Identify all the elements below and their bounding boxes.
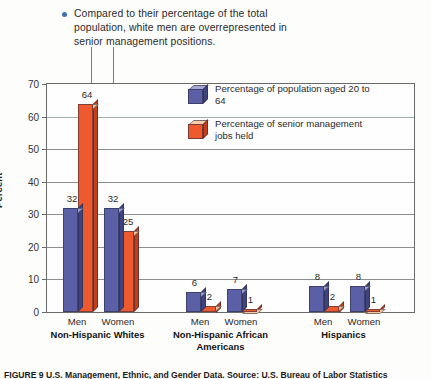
x-axis-subcategory-label: Men (57, 316, 98, 327)
bar-value-label: 32 (67, 193, 78, 204)
x-axis-group-label: Hispanics (284, 329, 404, 341)
y-axis-tick-label: 30 (28, 209, 39, 220)
chart-legend: Percentage of population aged 20 to 64 P… (188, 81, 378, 151)
bar-side-face (93, 99, 98, 312)
bar: 8 (309, 286, 324, 312)
bar: 8 (350, 286, 365, 312)
bar-side-face (134, 226, 139, 312)
y-axis-tick (42, 84, 47, 85)
y-axis-tick-label: 10 (28, 274, 39, 285)
y-axis-title: Percent (0, 172, 4, 208)
bar: 6 (186, 292, 201, 312)
bar-front-face (350, 286, 365, 312)
bar: 32 (63, 208, 78, 312)
y-axis-tick-label: 40 (28, 176, 39, 187)
bar-value-label: 2 (330, 291, 335, 302)
x-axis-subcategory-label: Men (303, 316, 344, 327)
y-axis-tick (42, 312, 47, 313)
annotation-callout: Compared to their percentage of the tota… (62, 7, 312, 50)
bullet-dot-icon (62, 12, 67, 17)
x-axis-group-label: Non-Hispanic Whites (38, 329, 158, 341)
x-axis-group: MenWomenNon-Hispanic African Americans (161, 316, 281, 352)
y-axis-tick (42, 117, 47, 118)
y-axis-tick-label: 50 (28, 144, 39, 155)
legend-item: Percentage of population aged 20 to 64 (188, 81, 378, 108)
bar-value-label: 6 (192, 277, 197, 288)
legend-label: Percentage of senior management jobs hel… (215, 116, 378, 143)
bar-value-label: 8 (356, 271, 361, 282)
bar-front-face (309, 286, 324, 312)
y-axis-tick-label: 70 (28, 79, 39, 90)
y-axis-tick (42, 247, 47, 248)
x-axis-subcategory-label: Men (180, 316, 221, 327)
x-axis-subcategory-label: Women (344, 316, 385, 327)
bar-value-label: 32 (108, 193, 119, 204)
bar-value-label: 8 (315, 271, 320, 282)
y-axis-tick-label: 60 (28, 111, 39, 122)
bar-front-face (227, 289, 242, 312)
y-axis-tick-label: 20 (28, 241, 39, 252)
gridline (47, 214, 414, 215)
bar-front-face (186, 292, 201, 312)
gridline (47, 247, 414, 248)
figure-caption: FIGURE 9 U.S. Management, Ethnic, and Ge… (4, 370, 427, 379)
y-axis-tick (42, 149, 47, 150)
bar-front-face (104, 208, 119, 312)
x-axis-group: MenWomenHispanics (284, 316, 404, 341)
bar-value-label: 2 (207, 291, 212, 302)
bar-side-face (78, 203, 83, 312)
y-axis-tick (42, 182, 47, 183)
chart-plot-area: 010203040506070 3264322562718281 Percent… (46, 83, 415, 313)
bar-value-label: 64 (82, 89, 93, 100)
annotation-text: Compared to their percentage of the tota… (62, 7, 312, 50)
orange-cube-icon (188, 120, 207, 139)
bar-value-label: 1 (371, 294, 376, 305)
bar: 32 (104, 208, 119, 312)
bar-value-label: 1 (248, 294, 253, 305)
bar-side-face (119, 203, 124, 312)
y-axis-tick (42, 214, 47, 215)
bar: 7 (227, 289, 242, 312)
blue-cube-icon (188, 85, 207, 104)
x-axis-subcategory-label: Women (221, 316, 262, 327)
bar-front-face (63, 208, 78, 312)
bar-value-label: 7 (233, 274, 238, 285)
bar-value-label: 25 (123, 216, 134, 227)
x-axis-subcategory-label: Women (98, 316, 139, 327)
y-axis-tick (42, 279, 47, 280)
x-axis-group: MenWomenNon-Hispanic Whites (38, 316, 158, 341)
legend-item: Percentage of senior management jobs hel… (188, 116, 378, 143)
legend-label: Percentage of population aged 20 to 64 (215, 81, 378, 108)
x-axis-group-label: Non-Hispanic African Americans (161, 329, 281, 352)
gridline (47, 182, 414, 183)
